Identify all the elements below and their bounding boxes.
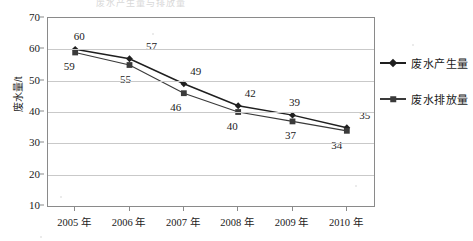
y-axis-tick-label: 30 <box>29 136 40 148</box>
legend-line-swatch <box>380 62 406 64</box>
x-axis-tick-labels: 2005 年2006 年2007 年2008 年2009 年2010 年 <box>47 210 375 232</box>
grid-line <box>48 143 374 144</box>
legend-item-label: 废水排放量 <box>411 91 469 107</box>
square-marker <box>390 96 396 102</box>
data-point-marker <box>127 62 133 68</box>
data-point-label: 39 <box>289 96 300 108</box>
y-axis-tick-mark <box>40 17 44 18</box>
data-point-marker <box>235 102 242 109</box>
legend-item-2[interactable]: 废水排放量 <box>380 91 469 107</box>
x-axis-tick-mark <box>74 207 75 211</box>
legend-item-1[interactable]: 废水产生量 <box>380 55 469 71</box>
y-axis-tick-label: 60 <box>29 42 40 54</box>
y-axis-tick-mark <box>40 48 44 49</box>
data-point-label: 49 <box>190 65 201 77</box>
x-axis-tick-label: 2008 年 <box>220 214 254 229</box>
grid-line <box>48 49 374 50</box>
scan-speck <box>152 33 154 35</box>
data-point-label: 42 <box>245 87 256 99</box>
data-point-label: 60 <box>74 30 85 42</box>
legend-line-swatch <box>380 98 406 100</box>
x-axis-tick-label: 2009 年 <box>275 214 309 229</box>
data-point-marker <box>290 119 296 125</box>
chart-legend: 废水产生量废水排放量 <box>380 55 472 125</box>
scan-speck <box>60 196 62 198</box>
data-point-label: 55 <box>120 73 131 85</box>
scan-speck <box>355 185 357 187</box>
x-axis-tick-mark <box>292 207 293 211</box>
scan-speck <box>40 236 42 238</box>
x-axis-tick-label: 2005 年 <box>57 214 91 229</box>
grid-line <box>48 81 374 82</box>
x-axis-tick-mark <box>237 207 238 211</box>
y-axis-tick-mark <box>40 111 44 112</box>
grid-line <box>48 175 374 176</box>
series-line-2 <box>75 52 347 130</box>
scan-speck <box>412 44 414 46</box>
y-axis-tick-label: 40 <box>29 105 40 117</box>
data-point-label: 35 <box>359 109 370 121</box>
series-line-1 <box>75 49 347 127</box>
y-axis-tick-label: 20 <box>29 168 40 180</box>
diamond-marker <box>389 59 397 67</box>
chart-figure: 废水产生量与排放量 废水量/t 70605040302010 605749423… <box>0 0 473 241</box>
data-point-label: 37 <box>285 129 296 141</box>
y-axis-tick-mark <box>40 173 44 174</box>
data-point-label: 59 <box>64 60 75 72</box>
x-axis-tick-label: 2006 年 <box>112 214 146 229</box>
data-point-marker <box>72 50 78 56</box>
data-point-marker <box>181 90 187 96</box>
legend-item-label: 废水产生量 <box>411 55 469 71</box>
grid-line <box>48 112 374 113</box>
data-point-marker <box>344 128 350 134</box>
y-axis-tick-mark <box>40 79 44 80</box>
y-axis-tick-label: 70 <box>29 11 40 23</box>
data-point-label: 40 <box>227 120 238 132</box>
data-point-marker <box>126 55 133 62</box>
y-axis-tick-mark <box>40 205 44 206</box>
x-axis-tick-label: 2010 年 <box>329 214 363 229</box>
x-axis-tick-mark <box>183 207 184 211</box>
y-axis-tick-labels: 70605040302010 <box>0 17 44 207</box>
x-axis-tick-mark <box>129 207 130 211</box>
y-axis-tick-label: 50 <box>29 74 40 86</box>
y-axis-tick-mark <box>40 142 44 143</box>
data-point-label: 34 <box>331 139 342 151</box>
chart-title-clipped: 废水产生量与排放量 <box>96 0 236 8</box>
x-axis-tick-label: 2007 年 <box>166 214 200 229</box>
plot-area: 605749423935595546403734 <box>47 17 375 207</box>
y-axis-tick-label: 10 <box>29 199 40 211</box>
x-axis-tick-mark <box>346 207 347 211</box>
